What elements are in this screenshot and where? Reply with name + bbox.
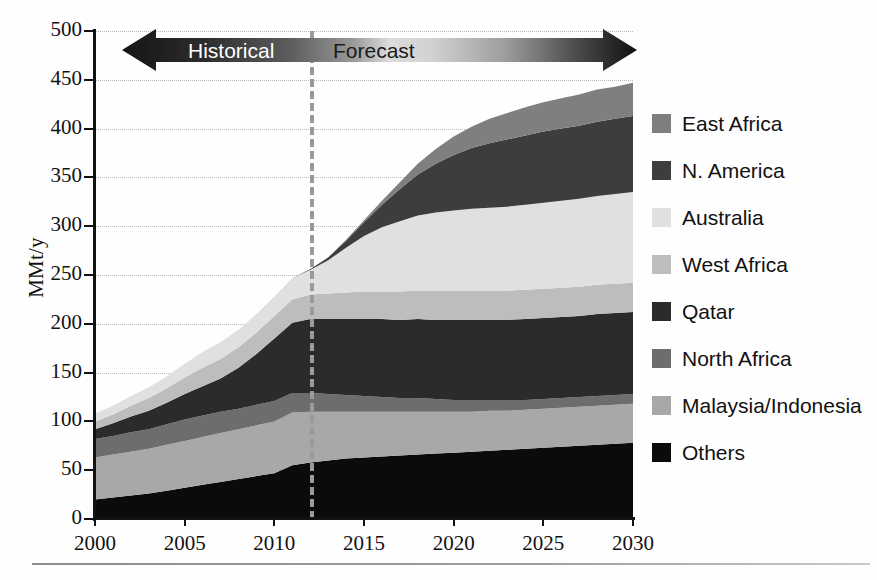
legend-item-malaysia-indonesia[interactable]: Malaysia/Indonesia [652,382,874,429]
legend-item-east-africa[interactable]: East Africa [652,100,874,147]
forecast-divider-line [310,31,314,519]
y-axis-tick-label: 350 [22,163,82,188]
legend-item-n-america[interactable]: N. America [652,147,874,194]
chart-figure: 050100150200250300350400450500 200020052… [0,0,877,580]
legend: East AfricaN. AmericaAustraliaWest Afric… [652,100,874,476]
y-axis-title: MMt/y [24,208,49,328]
y-axis-tick-label: 450 [22,66,82,91]
y-axis-tick-label: 50 [22,456,82,481]
historical-forecast-banner: Historical Forecast [122,27,637,73]
legend-item-north-africa[interactable]: North Africa [652,335,874,382]
x-axis-tick [453,517,455,526]
legend-item-australia[interactable]: Australia [652,194,874,241]
x-axis-tick [94,517,96,526]
y-axis-tick [84,420,95,422]
legend-item-qatar[interactable]: Qatar [652,288,874,335]
y-axis-tick [84,128,95,130]
legend-swatch-icon [652,349,671,368]
legend-swatch-icon [652,114,671,133]
legend-item-label: West Africa [682,254,788,275]
x-axis-tick-label: 2020 [414,531,494,556]
forecast-label: Forecast [333,39,415,63]
x-axis-tick-label: 2030 [593,531,673,556]
y-axis-tick-label: 500 [22,17,82,42]
legend-item-west-africa[interactable]: West Africa [652,241,874,288]
legend-item-label: Others [682,442,745,463]
footer-divider [32,563,870,565]
y-axis-tick [84,225,95,227]
legend-item-label: East Africa [682,113,782,134]
legend-swatch-icon [652,396,671,415]
legend-swatch-icon [652,302,671,321]
historical-label: Historical [188,39,274,63]
legend-swatch-icon [652,161,671,180]
legend-item-label: N. America [682,160,785,181]
x-axis-tick [542,517,544,526]
x-axis-tick [184,517,186,526]
y-axis-tick-label: 0 [22,505,82,530]
x-axis-tick [273,517,275,526]
y-axis-tick-label: 400 [22,115,82,140]
stacked-area-series [95,31,633,519]
y-axis-tick [84,372,95,374]
legend-item-label: North Africa [682,348,792,369]
x-axis-tick [363,517,365,526]
y-axis-tick [84,30,95,32]
legend-item-others[interactable]: Others [652,429,874,476]
legend-item-label: Malaysia/Indonesia [682,395,862,416]
x-axis-tick-label: 2025 [503,531,583,556]
legend-item-label: Australia [682,207,764,228]
y-axis-tick [84,274,95,276]
legend-swatch-icon [652,443,671,462]
legend-item-label: Qatar [682,301,735,322]
x-axis-tick-label: 2015 [324,531,404,556]
x-axis-tick-label: 2010 [234,531,314,556]
legend-swatch-icon [652,208,671,227]
y-axis-tick [84,469,95,471]
x-axis-tick-label: 2005 [145,531,225,556]
y-axis-tick [84,323,95,325]
legend-swatch-icon [652,255,671,274]
x-axis-tick-label: 2000 [55,531,135,556]
y-axis-tick [84,79,95,81]
x-axis-tick [632,517,634,526]
y-axis-tick-label: 100 [22,407,82,432]
y-axis-tick-label: 150 [22,359,82,384]
y-axis-tick [84,176,95,178]
